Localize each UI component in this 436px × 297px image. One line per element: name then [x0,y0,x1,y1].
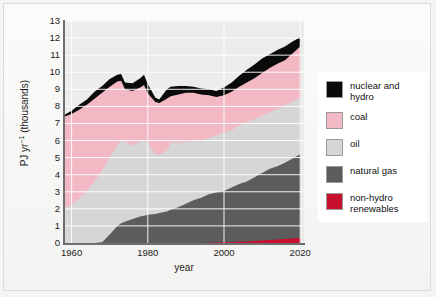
x-tick-label-2020: 2020 [280,247,320,258]
y-tick-label-13: 13 [38,16,60,26]
x-tick-label-2000: 2000 [204,247,244,258]
y-tick-label-8: 8 [38,101,60,111]
legend-label-natural-gas: natural gas [350,165,397,176]
legend-swatch-nuclear-and-hydro [326,81,343,98]
legend-item-coal[interactable]: coal [326,111,422,129]
legend-label-coal: coal [350,111,367,122]
y-tick-label-7: 7 [38,118,60,128]
y-tick-label-12: 12 [38,33,60,43]
legend-swatch-non-hydro-renewables [326,193,343,210]
y-tick-label-2: 2 [38,204,60,214]
legend-item-non-hydro-renewables[interactable]: non-hydro renewables [326,192,422,214]
y-tick-label-1: 1 [38,221,60,231]
y-tick-label-5: 5 [38,153,60,163]
legend-item-oil[interactable]: oil [326,138,422,156]
figure-container: 012345678910111213 1960198020002020 PJ y… [0,0,436,297]
x-axis-title: year [64,262,304,273]
y-axis-title: PJ yr−1 (thousands) [18,53,30,193]
y-axis-line [63,20,65,244]
legend-swatch-coal [326,112,343,129]
legend-label-non-hydro-renewables: non-hydro renewables [350,192,399,214]
plot-area [64,21,304,243]
legend-swatch-natural-gas [326,166,343,183]
chart-legend: nuclear and hydrocoaloilnatural gasnon-h… [318,72,428,222]
legend-label-oil: oil [350,138,360,149]
x-tick-label-1980: 1980 [128,247,168,258]
x-tick-label-1960: 1960 [52,247,92,258]
y-tick-label-4: 4 [38,170,60,180]
y-tick-label-11: 11 [38,50,60,60]
x-axis-line [63,243,305,245]
legend-item-nuclear-and-hydro[interactable]: nuclear and hydro [326,80,422,102]
legend-swatch-oil [326,139,343,156]
y-tick-label-6: 6 [38,136,60,146]
y-tick-label-3: 3 [38,187,60,197]
legend-label-nuclear-and-hydro: nuclear and hydro [350,80,400,102]
legend-item-natural-gas[interactable]: natural gas [326,165,422,183]
stacked-area-chart [64,21,304,243]
y-tick-label-9: 9 [38,84,60,94]
y-tick-label-10: 10 [38,67,60,77]
